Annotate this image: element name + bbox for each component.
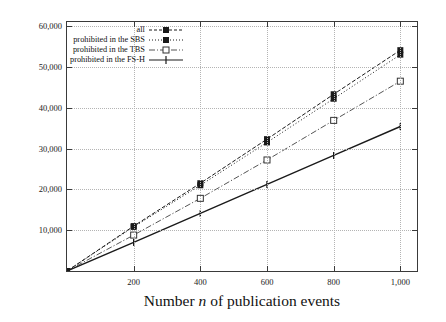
series-line-0 [67,50,400,271]
legend-label-sbs: prohibited in the SBS [73,35,149,45]
chart-legend: all prohibited in the SBS prohibited in … [68,23,189,67]
gridline-horizontal [67,189,417,190]
legend-swatch-all [149,25,183,35]
y-tick-label: 40,000 [39,103,67,113]
x-axis-label-prefix: Number [144,292,199,309]
y-tick-mark [67,67,72,68]
gridline-vertical [200,22,201,271]
y-tick-mark [67,189,72,190]
y-tick-mark [67,108,72,109]
y-tick-label: 60,000 [39,21,67,31]
legend-swatch-fsh [149,55,183,65]
x-tick-label: 800 [327,271,340,287]
y-tick-mark [412,230,417,231]
y-tick-mark [67,230,72,231]
gridline-vertical [334,22,335,271]
x-tick-mark [200,22,201,27]
y-tick-label: 20,000 [39,184,67,194]
chart-figure: Number of event messages 10,00020,00030,… [0,0,446,322]
x-tick-mark [267,22,268,27]
series-line-1 [67,55,400,271]
gridline-vertical [400,22,401,271]
legend-label-tbs: prohibited in the TBS [73,45,149,55]
legend-swatch-sbs [149,35,183,45]
gridline-horizontal [67,108,417,109]
y-tick-mark [412,108,417,109]
x-tick-label: 200 [127,271,140,287]
gridline-horizontal [67,67,417,68]
y-tick-mark [412,189,417,190]
y-tick-label: 10,000 [39,225,67,235]
legend-label-fsh: prohibited in the FS-H [70,55,149,65]
gridline-horizontal [67,149,417,150]
y-tick-mark [412,67,417,68]
series-line-2 [67,81,400,271]
y-tick-label: 50,000 [39,62,67,72]
y-axis-label-container: Number of event messages [6,21,28,272]
legend-swatch-tbs [149,45,183,55]
y-tick-mark [67,149,72,150]
legend-item-all: all [70,25,183,35]
x-axis-label: Number n of publication events [66,292,418,310]
y-tick-mark [412,149,417,150]
y-tick-label: 30,000 [39,144,67,154]
legend-item-sbs: prohibited in the SBS [70,35,183,45]
x-tick-label: 1,000 [391,271,410,287]
gridline-horizontal [67,230,417,231]
gridline-vertical [267,22,268,271]
legend-item-tbs: prohibited in the TBS [70,45,183,55]
legend-item-fsh: prohibited in the FS-H [70,55,183,65]
x-tick-label: 400 [194,271,207,287]
x-tick-mark [400,22,401,27]
x-tick-mark [334,22,335,27]
x-tick-label: 600 [261,271,274,287]
x-axis-label-suffix: of publication events [206,292,340,309]
origin-marker [67,268,70,271]
y-tick-mark [412,26,417,27]
legend-label-all: all [137,25,149,35]
